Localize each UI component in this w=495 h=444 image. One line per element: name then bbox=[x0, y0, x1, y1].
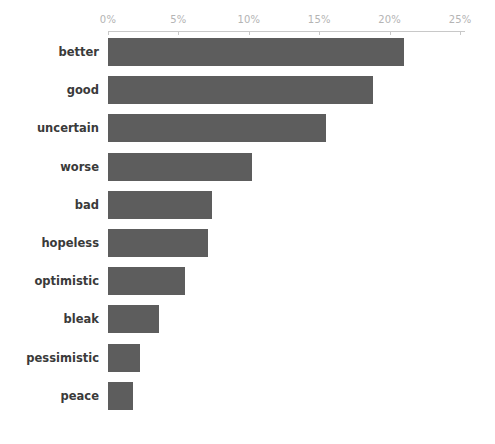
x-axis-tick-label: 25% bbox=[449, 14, 472, 25]
x-axis-line bbox=[108, 31, 465, 32]
bar-pessimistic bbox=[108, 344, 140, 372]
x-axis-tick-mark bbox=[108, 31, 109, 35]
x-axis-tick-mark bbox=[390, 31, 391, 35]
category-label-pessimistic: pessimistic bbox=[26, 344, 99, 372]
category-label-worse: worse bbox=[60, 153, 99, 181]
x-axis-tick-label: 10% bbox=[237, 14, 260, 25]
bar-peace bbox=[108, 382, 133, 410]
bar-optimistic bbox=[108, 267, 185, 295]
category-label-optimistic: optimistic bbox=[34, 267, 99, 295]
bar-row: bad bbox=[0, 191, 495, 219]
x-axis-tick-mark bbox=[460, 31, 461, 35]
bar-uncertain bbox=[108, 114, 326, 142]
category-label-bad: bad bbox=[75, 191, 99, 219]
bar-bad bbox=[108, 191, 212, 219]
bar-row: uncertain bbox=[0, 114, 495, 142]
bar-chart: 0%5%10%15%20%25% bettergooduncertainwors… bbox=[0, 0, 495, 444]
category-label-peace: peace bbox=[61, 382, 99, 410]
x-axis-tick-label: 0% bbox=[100, 14, 116, 25]
bar-good bbox=[108, 76, 373, 104]
category-label-good: good bbox=[67, 76, 99, 104]
x-axis-tick-mark bbox=[178, 31, 179, 35]
x-axis-tick-label: 20% bbox=[378, 14, 401, 25]
bar-row: worse bbox=[0, 153, 495, 181]
category-label-hopeless: hopeless bbox=[41, 229, 99, 257]
x-axis-tick-label: 15% bbox=[308, 14, 331, 25]
category-label-uncertain: uncertain bbox=[37, 114, 99, 142]
bar-row: bleak bbox=[0, 305, 495, 333]
bar-row: hopeless bbox=[0, 229, 495, 257]
bar-bleak bbox=[108, 305, 159, 333]
x-axis-tick-mark bbox=[319, 31, 320, 35]
x-axis-tick-label: 5% bbox=[170, 14, 186, 25]
x-axis-tick-mark bbox=[249, 31, 250, 35]
bar-row: better bbox=[0, 38, 495, 66]
bar-row: pessimistic bbox=[0, 344, 495, 372]
bar-hopeless bbox=[108, 229, 208, 257]
category-label-better: better bbox=[59, 38, 100, 66]
bar-row: optimistic bbox=[0, 267, 495, 295]
category-label-bleak: bleak bbox=[64, 305, 99, 333]
bar-worse bbox=[108, 153, 252, 181]
bar-row: good bbox=[0, 76, 495, 104]
bar-better bbox=[108, 38, 404, 66]
bar-row: peace bbox=[0, 382, 495, 410]
